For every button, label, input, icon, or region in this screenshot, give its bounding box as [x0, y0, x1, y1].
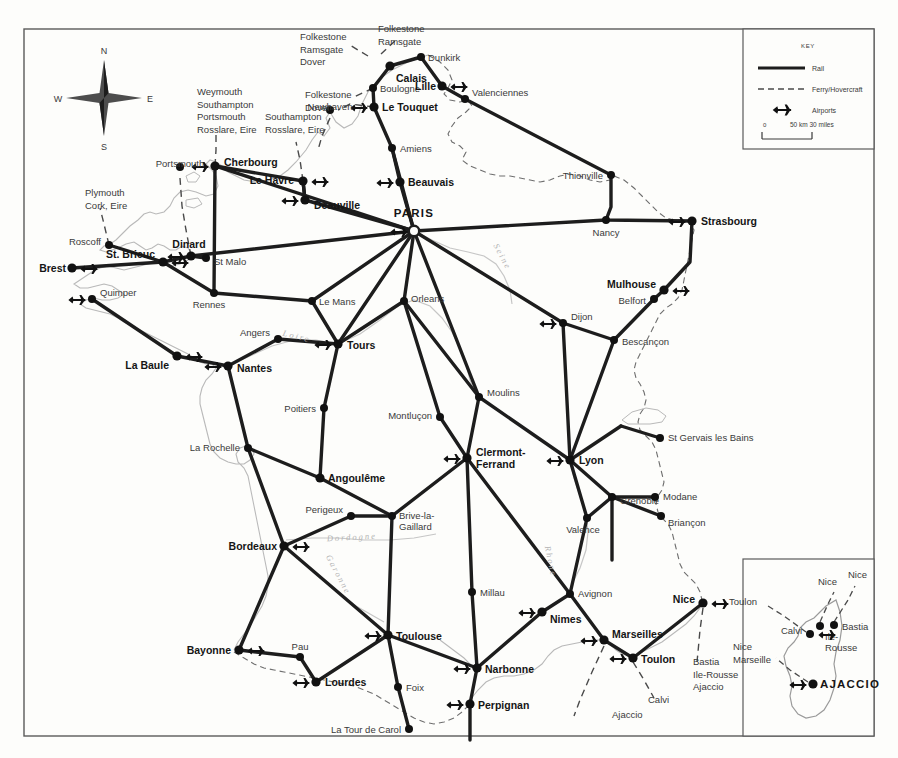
city-label: Dijon [571, 311, 593, 322]
city-node [244, 444, 252, 452]
ferry-destination-label: PlymouthCork, Eire [85, 187, 127, 211]
compass-south-label: S [101, 142, 107, 152]
ferry-destination-label: Toulon [729, 596, 757, 607]
city-label: Belfort [619, 295, 647, 306]
city-label: Angers [240, 327, 270, 338]
city-node [67, 263, 76, 272]
city-node [320, 404, 328, 412]
city-label: La Rochelle [190, 442, 240, 453]
city-node [234, 645, 243, 654]
map-page: PARISCalaisDunkirkBoulogneLilleValencien… [0, 0, 898, 758]
city-label: Quimper [100, 287, 136, 298]
city-node [437, 81, 446, 90]
key-ferry-label: Ferry/Hovercraft [812, 86, 863, 94]
city-label: PARIS [394, 207, 434, 219]
city-label: La Baule [125, 359, 169, 371]
city-node [385, 61, 394, 70]
city-node [333, 339, 342, 348]
city-node [315, 473, 324, 482]
city-label: Angoulême [328, 472, 385, 484]
city-narbonne[interactable]: Narbonne [453, 663, 534, 675]
compass-north-label: N [101, 46, 108, 56]
city-la-tour-de-carol[interactable]: La Tour de Carol [331, 724, 413, 735]
city-node [602, 216, 610, 224]
city-perpignan[interactable]: Perpignan [446, 699, 529, 711]
city-node [308, 297, 316, 305]
city-node [300, 195, 309, 204]
city-label: Perigeux [306, 504, 344, 515]
city-node [274, 335, 282, 343]
city-label: Pau [292, 641, 309, 652]
city-label: Avignon [578, 588, 612, 599]
city-node [472, 663, 481, 672]
city-node [830, 621, 838, 629]
city-label: Perpignan [478, 699, 529, 711]
city-node [608, 493, 616, 501]
city-node [400, 297, 408, 305]
city-node [628, 653, 637, 662]
city-label: Beauvais [408, 176, 454, 188]
city-toulouse[interactable]: Toulouse [364, 630, 442, 642]
city-node [687, 216, 696, 225]
city-node [599, 635, 608, 644]
city-node [656, 434, 664, 442]
city-label: Briançon [668, 517, 706, 528]
city-label: Modane [663, 491, 697, 502]
city-label: Toulouse [396, 630, 442, 642]
city-node [806, 630, 814, 638]
city-label: St. Brieuc [106, 248, 155, 260]
city-label: Lourdes [325, 676, 367, 688]
city-node [436, 413, 444, 421]
key-rail-label: Rail [812, 65, 825, 72]
city-label: Le Touquet [382, 101, 438, 113]
city-node [158, 257, 167, 266]
city-label: Toulon [641, 653, 675, 665]
city-node [461, 95, 469, 103]
city-node [468, 588, 476, 596]
city-node [816, 622, 824, 630]
city-label: Orleans [411, 293, 445, 304]
city-node [559, 319, 567, 327]
city-node [475, 393, 483, 401]
city-node [650, 295, 658, 303]
city-node [417, 53, 425, 61]
city-node [583, 514, 591, 522]
city-node [566, 590, 574, 598]
city-node [296, 653, 304, 661]
city-label: Rennes [193, 299, 226, 310]
city-label: Lille [415, 80, 436, 92]
ferry-destination-label: Nice [818, 576, 837, 587]
city-node [465, 699, 474, 708]
city-node [657, 512, 665, 520]
city-node [651, 493, 659, 501]
key-scale-text: 50 km 30 miles [790, 121, 834, 128]
city-label: Nimes [550, 613, 582, 625]
city-node [210, 161, 219, 170]
city-label: St Gervais les Bains [668, 432, 754, 443]
city-label: Dunkirk [428, 52, 460, 63]
city-label: Cherbourg [224, 156, 278, 168]
city-label: Bastia [842, 621, 869, 632]
city-st-gervais-les-bains[interactable]: St Gervais les Bains [656, 432, 754, 443]
city-label: Moulins [487, 387, 520, 398]
city-label: Bordeaux [229, 540, 278, 552]
city-label: Le Mans [319, 296, 356, 307]
key-airports-label: Airports [812, 107, 837, 115]
city-node [610, 336, 618, 344]
city-node [395, 177, 404, 186]
city-label: Portsmouth [156, 158, 205, 169]
city-node [607, 171, 615, 179]
city-node [698, 598, 707, 607]
city-label: Roscoff [69, 236, 101, 247]
city-node [88, 295, 96, 303]
city-label: Dinard [172, 238, 205, 250]
city-node [808, 679, 817, 688]
city-label: Le Havre [250, 174, 295, 186]
city-node [388, 144, 396, 152]
city-label: Brive-la-Gaillard [399, 510, 434, 532]
city-label: AJACCIO [820, 678, 880, 690]
city-label: La Tour de Carol [331, 724, 401, 735]
city-label: Marseilles [612, 628, 663, 640]
city-node [223, 361, 232, 370]
city-label: Deauville [314, 199, 360, 211]
